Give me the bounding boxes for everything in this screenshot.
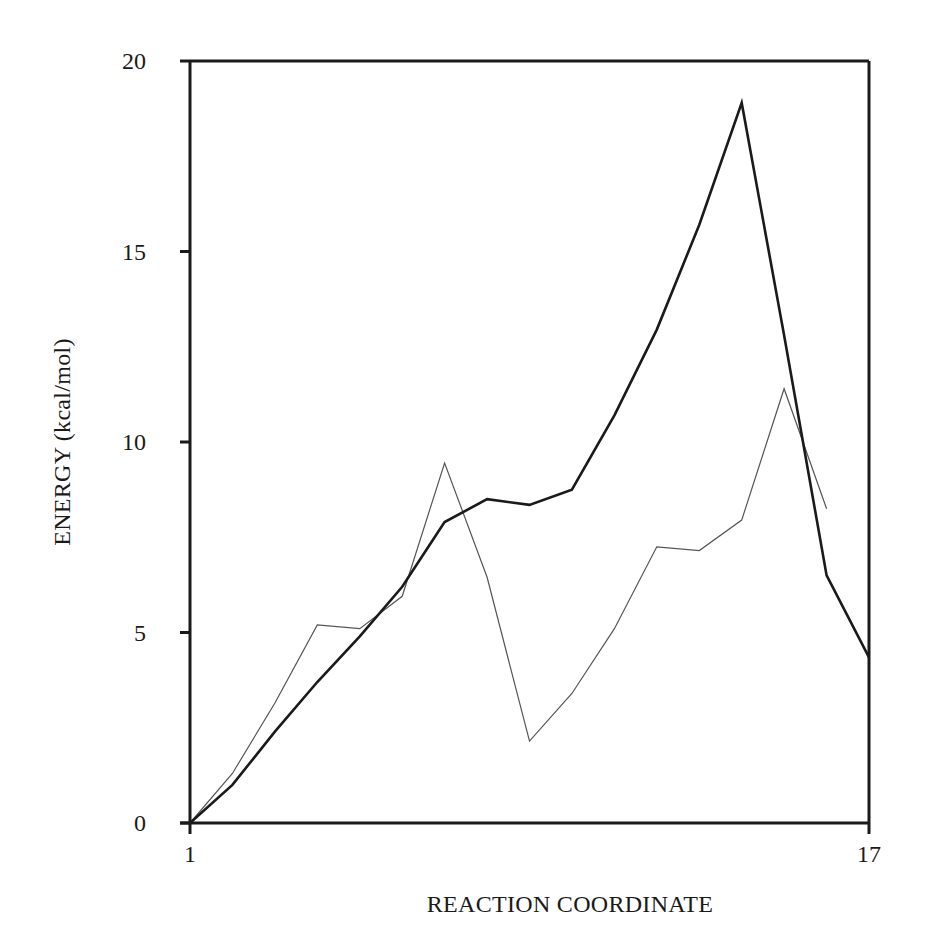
y-tick-label: 20 [122,48,146,74]
dark-energy-curve [190,103,869,823]
y-tick-label: 10 [122,429,146,455]
y-tick-label: 5 [134,620,146,646]
series-layer [190,103,869,823]
x-tick-label: 1 [184,841,196,867]
x-axis-title: REACTION COORDINATE [427,891,713,917]
x-tick-label: 17 [857,841,881,867]
y-tick-label: 0 [134,810,146,836]
x-axis-ticks: 117 [184,823,881,867]
y-axis-ticks: 05101520 [122,48,190,836]
plot-frame [180,61,869,823]
energy-profile-chart: 05101520 117 ENERGY (kcal/mol) REACTION … [0,0,925,945]
y-tick-label: 15 [122,239,146,265]
y-axis-title: ENERGY (kcal/mol) [49,338,75,546]
light-energy-curve [190,389,827,823]
